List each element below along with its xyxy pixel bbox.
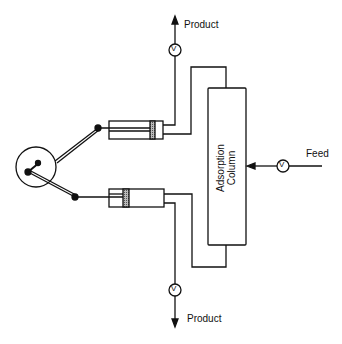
column-label: Adsorption Column: [215, 128, 239, 208]
connecting-rod-top: [55, 125, 101, 163]
piston-cylinder-top: [98, 121, 163, 139]
product-line-top: [163, 16, 178, 125]
connecting-rod-bottom: [28, 170, 78, 200]
pipe-top-to-column: [163, 67, 226, 134]
diagram-canvas: V V V Product Product Feed Adsorption Co…: [0, 0, 342, 344]
column-label-line1: Adsorption: [215, 128, 226, 208]
valve-symbol-bottom: V: [171, 284, 176, 293]
feed-label: Feed: [306, 148, 329, 159]
product-label-bottom: Product: [187, 313, 221, 324]
piston-cylinder-bottom: [75, 189, 164, 207]
valve-symbol-feed: V: [279, 160, 284, 169]
product-line-bottom: [164, 203, 178, 327]
valve-symbol-top: V: [171, 44, 176, 53]
column-label-line2: Column: [226, 128, 237, 208]
product-label-top: Product: [184, 19, 218, 30]
